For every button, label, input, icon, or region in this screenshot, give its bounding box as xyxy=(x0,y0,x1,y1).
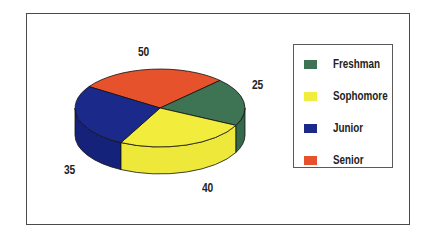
data-label-freshman: 25 xyxy=(252,78,263,92)
legend-swatch-junior xyxy=(304,124,317,133)
legend-label: Freshman xyxy=(333,57,380,71)
legend-swatch-senior xyxy=(304,156,317,165)
data-label-junior: 35 xyxy=(64,163,75,177)
chart-legend: Freshman Sophomore Junior Senior xyxy=(293,44,393,168)
legend-swatch-freshman xyxy=(304,60,317,69)
legend-swatch-sophomore xyxy=(304,92,317,101)
data-label-senior: 50 xyxy=(138,45,149,59)
legend-label: Sophomore xyxy=(333,89,388,103)
legend-item-freshman: Freshman xyxy=(294,59,392,73)
legend-item-sophomore: Sophomore xyxy=(294,91,392,105)
legend-item-junior: Junior xyxy=(294,123,392,137)
legend-item-senior: Senior xyxy=(294,155,392,169)
data-label-sophomore: 40 xyxy=(202,181,213,195)
legend-label: Junior xyxy=(333,121,363,135)
legend-label: Senior xyxy=(333,153,364,167)
